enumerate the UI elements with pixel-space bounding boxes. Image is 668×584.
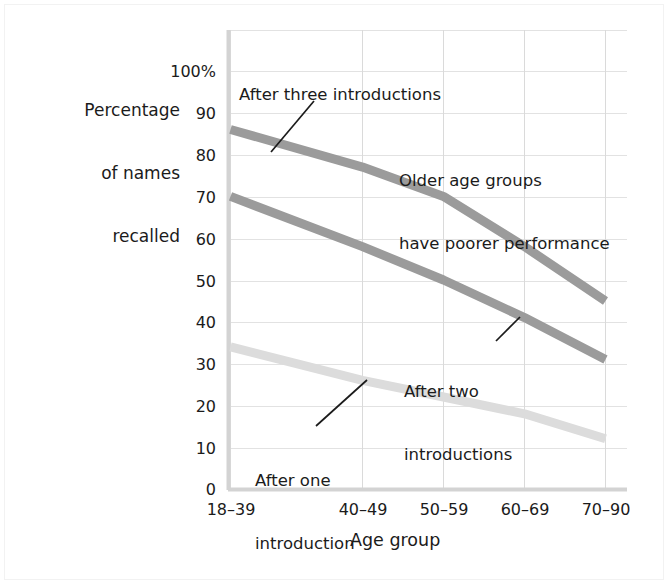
y-tick-label-50: 50	[164, 272, 216, 291]
chart-figure: Percentage of names recalled 100% 90 80 …	[0, 0, 668, 584]
annotation-after-one-line-1: After one	[255, 470, 355, 491]
annotation-after-two-introductions: After two introductions	[404, 339, 512, 507]
y-tick-label-0: 0	[164, 480, 216, 499]
y-axis-title-line-2: of names	[32, 163, 180, 184]
y-tick-label-100: 100%	[164, 62, 216, 81]
y-tick-label-10: 10	[164, 439, 216, 458]
annotation-after-three-introductions: After three introductions	[239, 84, 441, 105]
y-tick-label-90: 90	[164, 104, 216, 123]
annotation-after-two-line-2: introductions	[404, 444, 512, 465]
annotation-after-one-introduction: After one introduction	[255, 428, 355, 584]
y-tick-label-20: 20	[164, 397, 216, 416]
y-axis-title-line-3: recalled	[32, 226, 180, 247]
annotation-after-one-line-2: introduction	[255, 533, 355, 554]
y-tick-label-40: 40	[164, 313, 216, 332]
y-tick-label-60: 60	[164, 230, 216, 249]
annotation-after-two-line-1: After two	[404, 381, 512, 402]
annotation-takeaway: Older age groups have poorer performance	[399, 128, 610, 296]
y-axis-title-line-1: Percentage	[32, 100, 180, 121]
annotation-takeaway-line-1: Older age groups	[399, 170, 610, 191]
y-tick-label-70: 70	[164, 188, 216, 207]
x-tick-label-70-90: 70–90	[566, 500, 646, 519]
annotation-takeaway-line-2: have poorer performance	[399, 233, 610, 254]
y-axis-title: Percentage of names recalled	[32, 58, 180, 289]
y-tick-label-30: 30	[164, 355, 216, 374]
y-tick-label-80: 80	[164, 146, 216, 165]
x-axis-title: Age group	[350, 530, 440, 551]
